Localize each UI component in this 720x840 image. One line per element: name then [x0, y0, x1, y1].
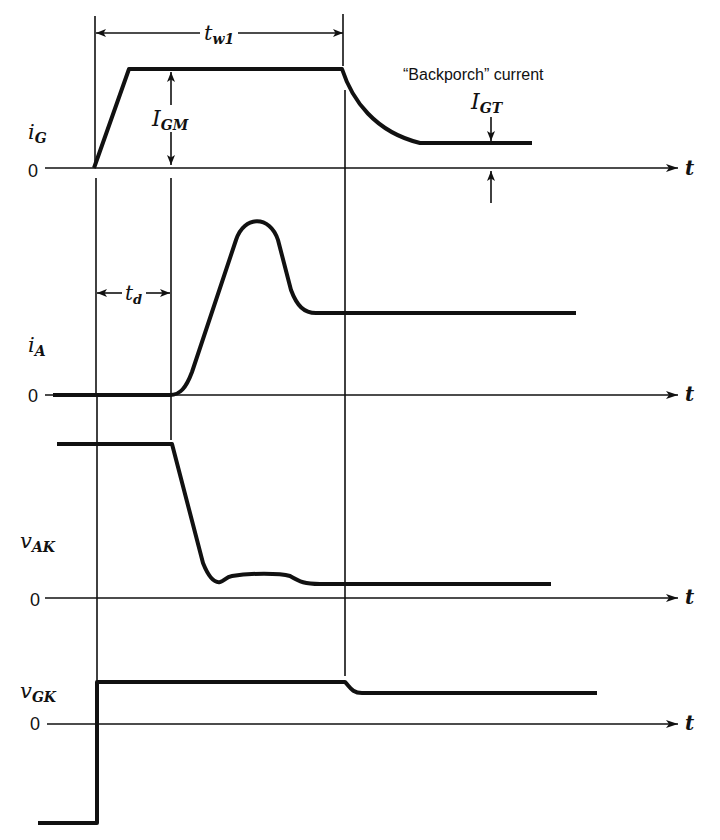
vGK-zero-label: 0 [30, 714, 40, 734]
IGM-label: IGM [151, 106, 189, 133]
vAK-zero-label: 0 [30, 590, 40, 610]
vAK-waveform [57, 444, 551, 584]
tw1-label: tw1 [204, 21, 234, 47]
vGK-t-label: t [685, 711, 695, 735]
signal-vGK: vGK 0 t [20, 679, 695, 823]
iA-waveform [53, 221, 576, 395]
signal-iG: iG 0 t IGM “Backporch” current IGT [28, 66, 695, 203]
IGT-label: IGT [470, 89, 504, 116]
vGK-axis-label: vGK [20, 679, 57, 705]
iG-t-label: t [685, 156, 695, 180]
signal-iA: iA 0 t [28, 221, 695, 406]
vGK-waveform [38, 682, 597, 823]
td-label: td [125, 281, 142, 307]
iA-axis-label: iA [28, 333, 46, 359]
thyristor-gate-timing-diagram: tw1 iG 0 t IGM “Backporch” current IGT t… [0, 0, 720, 840]
backporch-label: “Backporch” current [403, 66, 544, 83]
vAK-axis-label: vAK [20, 529, 56, 555]
iA-zero-label: 0 [28, 386, 38, 406]
vAK-t-label: t [685, 585, 695, 609]
iG-zero-label: 0 [28, 161, 38, 181]
iG-axis-label: iG [28, 120, 47, 146]
td-dimension: td [97, 281, 170, 307]
signal-vAK: vAK 0 t [20, 444, 695, 610]
tw1-dimension: tw1 [96, 21, 343, 47]
iA-t-label: t [685, 382, 695, 406]
